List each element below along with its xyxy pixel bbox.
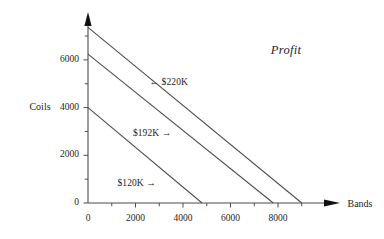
- y-tick-label: 4000: [60, 103, 79, 113]
- iso-profit-chart: Profit Coils Bands 0200040006000 0200040…: [0, 0, 384, 239]
- y-tick-label: 6000: [60, 55, 79, 65]
- series-label-220k: ← $220K: [150, 78, 188, 88]
- tick-layer: [84, 36, 302, 207]
- series-lines-layer: [88, 27, 302, 203]
- x-axis-title: Bands: [348, 199, 373, 209]
- y-tick-label: 0: [74, 198, 79, 208]
- chart-plot-area: [0, 0, 384, 239]
- iso-profit-line: [88, 27, 302, 203]
- x-tick-label: 4000: [174, 214, 193, 224]
- x-tick-label: 6000: [221, 214, 240, 224]
- y-axis-arrowhead: [84, 12, 91, 26]
- series-label-192k: $192K →: [133, 129, 171, 139]
- y-tick-label: 2000: [60, 151, 79, 161]
- x-tick-label: 0: [86, 214, 91, 224]
- x-tick-label: 2000: [126, 214, 145, 224]
- x-axis-arrowhead: [324, 199, 340, 206]
- x-tick-label: 8000: [269, 214, 288, 224]
- iso-profit-line: [88, 108, 202, 203]
- series-label-120k: $120K →: [117, 179, 155, 189]
- y-axis-title: Coils: [29, 102, 50, 112]
- chart-title: Profit: [271, 44, 302, 57]
